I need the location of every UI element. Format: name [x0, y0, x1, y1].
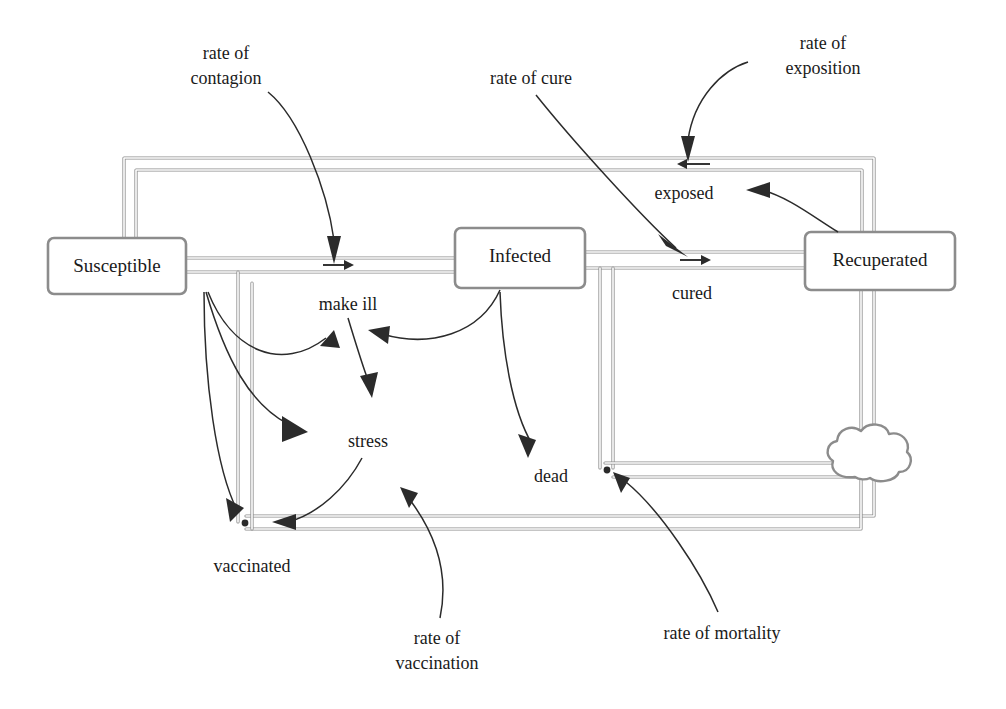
link-contagion-to-valve — [268, 92, 334, 240]
param-label-rate-of-exposition-line1: rate of — [800, 33, 846, 53]
junction-dead — [604, 467, 611, 474]
flow-label-vaccinated: vaccinated — [214, 556, 291, 576]
stock-flow-diagram: Susceptible Infected Recuperated — [0, 0, 1006, 709]
param-label-rate-of-mortality: rate of mortality — [664, 623, 781, 643]
cloud-icon — [828, 425, 911, 482]
link-recuperated-to-exposed — [762, 190, 838, 232]
link-infected-to-makeill — [382, 290, 500, 339]
flow-label-stress: stress — [348, 431, 388, 451]
flow-label-exposed: exposed — [655, 183, 714, 203]
param-label-rate-of-vaccination-line1: rate of — [414, 628, 460, 648]
link-vaccination-to-valve — [410, 500, 443, 618]
link-exposition-to-valve — [688, 62, 748, 140]
link-stress-to-vaccinated — [288, 458, 362, 522]
causal-links — [204, 62, 838, 618]
stock-boxes: Susceptible Infected Recuperated — [48, 228, 955, 294]
stock-label-susceptible: Susceptible — [73, 255, 161, 276]
diagram-canvas: Susceptible Infected Recuperated — [0, 0, 1006, 709]
flow-direction-arrows — [242, 159, 711, 526]
stock-label-recuperated: Recuperated — [833, 249, 928, 270]
pipe-vaccinated-b — [246, 285, 861, 529]
flow-label-dead: dead — [534, 466, 568, 486]
link-susceptible-to-makeill — [208, 292, 326, 355]
link-infected-to-dead — [500, 292, 532, 444]
param-label-rate-of-contagion-line2: contagion — [191, 68, 262, 88]
link-makeill-to-stress — [348, 318, 368, 380]
param-label-rate-of-contagion-line1: rate of — [203, 43, 249, 63]
stock-label-infected: Infected — [489, 245, 552, 266]
flow-label-cured: cured — [672, 283, 712, 303]
link-mortality-to-valve — [626, 482, 718, 612]
param-label-rate-of-vaccination-line2: vaccination — [396, 653, 479, 673]
param-label-rate-of-cure: rate of cure — [490, 68, 572, 88]
link-susceptible-to-vaccinated — [204, 292, 238, 512]
cloud-sink — [828, 425, 911, 482]
param-label-rate-of-exposition-line2: exposition — [786, 58, 861, 78]
junction-vaccinated — [242, 520, 249, 527]
flow-pipes — [124, 158, 874, 529]
flow-label-make-ill: make ill — [319, 294, 377, 314]
